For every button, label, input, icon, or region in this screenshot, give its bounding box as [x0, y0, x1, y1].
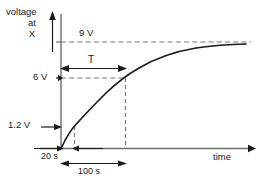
time-constant-label: T — [88, 55, 94, 65]
interval-label: 100 s — [78, 167, 100, 176]
y-axis-title: voltage at X — [6, 6, 58, 39]
voltage-time-graph-figure: voltage at X 9 V T 6 V 1.2 V 20 s 100 s … — [0, 0, 258, 188]
nine-volt-label: 9 V — [79, 28, 93, 38]
y-axis-title-line-3: X — [6, 28, 58, 39]
x-axis-arrowhead — [248, 145, 256, 152]
delay-right-arrowhead — [72, 145, 79, 151]
interval-span-right-arrowhead — [118, 160, 127, 166]
t-span-right-arrowhead — [118, 65, 127, 72]
time-axis-label: time — [213, 152, 231, 162]
delay-label: 20 s — [41, 152, 58, 161]
y-axis-title-line-1: voltage — [6, 6, 58, 17]
y-axis-title-line-2: at — [6, 17, 58, 28]
interval-span-left-arrowhead — [60, 160, 69, 166]
initial-voltage-label: 1.2 V — [8, 120, 30, 130]
six-volt-label: 6 V — [33, 72, 47, 82]
